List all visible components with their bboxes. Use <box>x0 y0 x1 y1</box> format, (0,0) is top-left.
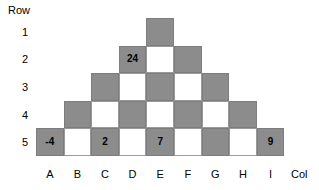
grid-cell-b4[interactable] <box>64 101 92 129</box>
grid-cell-f4[interactable] <box>174 101 202 129</box>
col-label-f: F <box>174 168 202 180</box>
row-label-3: 3 <box>18 81 32 93</box>
grid-cell-i5[interactable]: 9 <box>257 128 285 156</box>
col-label-e: E <box>146 168 174 180</box>
grid-cell-f2[interactable] <box>174 46 202 74</box>
grid-cell-f3[interactable] <box>174 73 202 101</box>
grid-cell-e5[interactable]: 7 <box>146 128 174 156</box>
cell-value: 2 <box>102 137 108 147</box>
grid-cell-d3[interactable] <box>119 73 147 101</box>
grid-cell-c4[interactable] <box>91 101 119 129</box>
grid-cell-e4[interactable] <box>146 101 174 129</box>
grid-cell-h5[interactable] <box>229 128 257 156</box>
cell-value: 7 <box>157 137 163 147</box>
row-label-2: 2 <box>18 53 32 65</box>
grid-cell-c5[interactable]: 2 <box>91 128 119 156</box>
grid-cell-b5[interactable] <box>64 128 92 156</box>
col-label-b: B <box>64 168 92 180</box>
col-label-h: H <box>229 168 257 180</box>
col-axis-title: Col <box>291 168 308 180</box>
grid-cell-d5[interactable] <box>119 128 147 156</box>
col-label-a: A <box>36 168 64 180</box>
grid-cell-e3[interactable] <box>146 73 174 101</box>
grid-cell-d4[interactable] <box>119 101 147 129</box>
grid-cell-d2[interactable]: 24 <box>119 46 147 74</box>
grid-cell-e1[interactable] <box>146 18 174 46</box>
grid-cell-a5[interactable]: -4 <box>36 128 64 156</box>
row-label-4: 4 <box>18 109 32 121</box>
grid-cell-f5[interactable] <box>174 128 202 156</box>
cell-value: 24 <box>127 54 138 64</box>
col-label-g: G <box>202 168 230 180</box>
cell-value: -4 <box>45 137 54 147</box>
grid-cell-c3[interactable] <box>91 73 119 101</box>
cell-value: 9 <box>268 137 274 147</box>
pyramid-grid-figure: Row Col 12345 ABCDEFGHI 24-4279 <box>0 0 319 190</box>
row-label-1: 1 <box>18 26 32 38</box>
grid-cell-h4[interactable] <box>229 101 257 129</box>
row-label-5: 5 <box>18 136 32 148</box>
grid-cell-e2[interactable] <box>146 46 174 74</box>
grid-cell-g5[interactable] <box>202 128 230 156</box>
col-label-d: D <box>119 168 147 180</box>
grid-cell-g4[interactable] <box>202 101 230 129</box>
grid-cell-g3[interactable] <box>202 73 230 101</box>
col-label-c: C <box>91 168 119 180</box>
row-axis-title: Row <box>8 4 30 16</box>
col-label-i: I <box>257 168 285 180</box>
